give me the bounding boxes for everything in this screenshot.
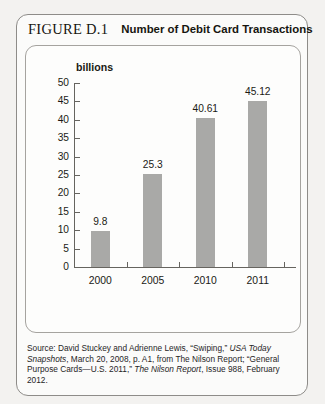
y-axis-tick-label: 5 [47,243,69,254]
y-axis-tick-label: 30 [47,151,69,162]
bar-value-label: 9.8 [75,216,125,227]
bar [196,118,215,267]
x-axis-tick-mark [127,262,128,267]
figure-number-label: FIGURE D.1 [28,21,108,38]
bar [143,174,162,267]
y-axis-unit-label: billions [76,61,113,73]
x-axis-line [74,267,296,268]
y-axis-tick-mark [75,230,80,231]
bar-value-label: 40.61 [180,103,230,114]
y-axis-tick-mark [75,138,80,139]
figure-frame: FIGURE D.1 Number of Debit Card Transact… [16,14,308,396]
y-axis-tick-label: 40 [47,114,69,125]
y-axis-tick-mark [75,212,80,213]
figure-header: FIGURE D.1 Number of Debit Card Transact… [17,15,307,43]
source-line-1-suffix: , [66,354,68,364]
y-axis-tick-mark [75,101,80,102]
y-axis-tick-label: 25 [47,169,69,180]
x-axis-tick-mark [284,262,285,267]
x-axis-category-label: 2005 [128,275,178,286]
figure-title: Number of Debit Card Transactions [121,23,312,35]
y-axis-tick-label: 10 [47,224,69,235]
y-axis-tick-mark [75,83,80,84]
y-axis-tick-label: 0 [47,261,69,272]
y-axis-tick-mark [75,175,80,176]
chart-panel: billions051015202530354045509.8200025.32… [25,45,301,333]
y-axis-tick-label: 15 [47,206,69,217]
figure-root: FIGURE D.1 Number of Debit Card Transact… [0,0,325,404]
y-axis-tick-mark [75,120,80,121]
bar-value-label: 45.12 [233,86,283,97]
source-line-3-prefix: 2011,” [109,364,134,374]
y-axis-tick-mark [75,249,80,250]
y-axis-tick-label: 35 [47,132,69,143]
y-axis-tick-mark [75,193,80,194]
x-axis-category-label: 2011 [233,275,283,286]
bar-value-label: 25.3 [128,159,178,170]
source-note: Source: David Stuckey and Adrienne Lewis… [27,343,299,385]
x-axis-category-label: 2000 [75,275,125,286]
source-line-1-prefix: Source: David Stuckey and Adrienne Lewis… [27,343,229,353]
bar [248,101,267,267]
x-axis-tick-mark [232,262,233,267]
bar [91,231,110,267]
y-axis-tick-mark [75,157,80,158]
source-line-3-italic: The Nilson Report [134,364,201,374]
y-axis-tick-label: 50 [47,77,69,88]
x-axis-category-label: 2010 [180,275,230,286]
x-axis-tick-mark [179,262,180,267]
y-axis-tick-label: 45 [47,95,69,106]
bar-chart: billions051015202530354045509.8200025.32… [26,46,301,333]
y-axis-tick-label: 20 [47,187,69,198]
